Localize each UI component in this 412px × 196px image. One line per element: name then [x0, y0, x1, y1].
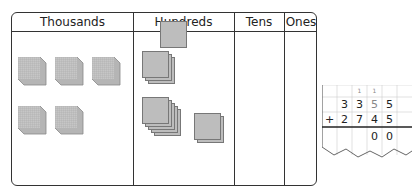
thousand-cube [55, 106, 83, 134]
divider [133, 13, 134, 185]
digit: 1 [368, 87, 381, 94]
header-ones: Ones [284, 15, 318, 29]
thousand-cube [55, 57, 83, 85]
digit: 1 [353, 87, 366, 94]
digit: 3 [353, 98, 366, 111]
digit: 2 [338, 113, 351, 126]
divider [234, 13, 235, 185]
hundred-flat [160, 21, 187, 48]
digit: 7 [353, 113, 366, 126]
hundred-flat [142, 51, 169, 78]
thousand-cube [18, 106, 46, 134]
digit: 4 [368, 113, 381, 126]
grid-lines [322, 85, 412, 169]
thousand-cube [92, 57, 120, 85]
digit: 0 [368, 130, 381, 143]
header-thousands: Thousands [12, 15, 133, 29]
hundred-flat [142, 97, 169, 124]
digit: 5 [368, 98, 381, 111]
column-addition: 1133552745+00 [322, 85, 412, 169]
digit: 5 [383, 113, 396, 126]
divider [284, 13, 285, 185]
place-value-table: Thousands Hundreds Tens Ones [11, 12, 317, 186]
digit: 5 [383, 98, 396, 111]
hundred-flat [194, 113, 221, 140]
header-tens: Tens [234, 15, 284, 29]
digit: + [323, 113, 336, 126]
thousand-cube [18, 57, 46, 85]
digit: 0 [383, 130, 396, 143]
digit: 3 [338, 98, 351, 111]
